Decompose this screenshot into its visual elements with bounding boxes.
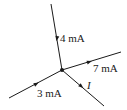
label-top-current: 4 mA: [60, 32, 85, 44]
label-right-current: 7 mA: [93, 62, 118, 74]
arrow-right-icon: [87, 59, 93, 64]
arrow-lower-left-icon: [33, 81, 39, 87]
kcl-node-diagram: 4 mA 7 mA 3 mA I: [0, 0, 127, 110]
label-lower-left-current: 3 mA: [37, 87, 62, 99]
wire-lower-right: [62, 70, 104, 106]
label-unknown-current-i: I: [86, 79, 92, 91]
junction-node-dot: [60, 68, 64, 72]
